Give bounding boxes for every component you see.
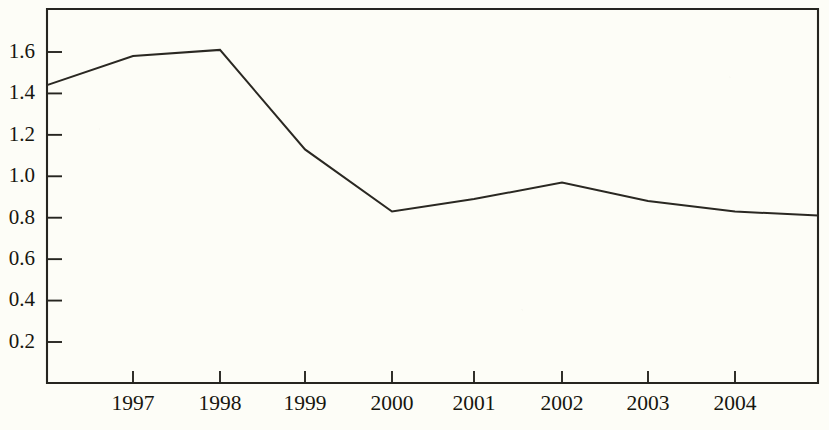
- plot-border: [47, 9, 818, 383]
- line-chart: 0.20.40.60.81.01.21.41.6 199719981999200…: [0, 0, 829, 430]
- data-line-series-1: [47, 50, 818, 216]
- x-tick-label-2003: 2003: [627, 391, 670, 415]
- y-tick-label-0.6: 0.6: [9, 246, 35, 270]
- y-tick-label-1.2: 1.2: [9, 122, 35, 146]
- y-axis-tick-labels: 0.20.40.60.81.01.21.41.6: [9, 39, 36, 353]
- y-tick-label-1.0: 1.0: [9, 163, 35, 187]
- data-series-group: [47, 50, 818, 216]
- chart-figure: 0.20.40.60.81.01.21.41.6 199719981999200…: [0, 0, 829, 430]
- y-tick-label-0.4: 0.4: [9, 287, 36, 311]
- x-tick-label-1997: 1997: [112, 391, 155, 415]
- y-tick-label-1.6: 1.6: [9, 39, 35, 63]
- axes-frame: [47, 9, 818, 383]
- y-tick-label-1.4: 1.4: [9, 80, 36, 104]
- x-tick-label-2004: 2004: [714, 391, 757, 415]
- y-tick-label-0.8: 0.8: [9, 205, 35, 229]
- x-axis-ticks: [133, 371, 735, 383]
- x-axis-tick-labels: 19971998199920002001200220032004: [112, 391, 757, 415]
- x-tick-label-1999: 1999: [284, 391, 327, 415]
- x-tick-label-2002: 2002: [541, 391, 584, 415]
- x-tick-label-2001: 2001: [453, 391, 496, 415]
- y-axis-ticks: [47, 52, 62, 342]
- y-tick-label-0.2: 0.2: [9, 329, 35, 353]
- x-tick-label-2000: 2000: [371, 391, 414, 415]
- x-tick-label-1998: 1998: [199, 391, 242, 415]
